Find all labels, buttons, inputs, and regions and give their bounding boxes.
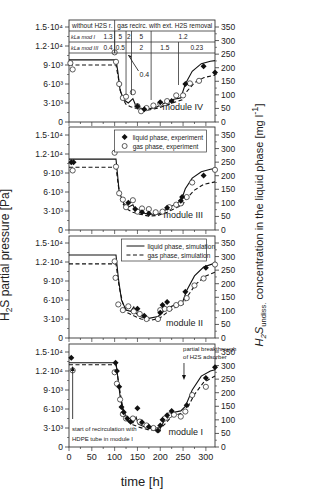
y-tick-label-right: 250 [221, 157, 235, 167]
x-tick-label: 200 [153, 452, 168, 462]
y-tick-label-right: 200 [221, 279, 235, 289]
gas-exp-marker [126, 304, 131, 309]
gas-exp-marker [151, 103, 156, 108]
y-tick-label-right: 300 [221, 361, 235, 371]
y-tick-label-left: 9·10³ [43, 385, 63, 395]
gas-exp-marker [120, 197, 125, 202]
y-tick-label-right: 100 [221, 90, 235, 100]
y-tick-label-left: 1.5·10⁴ [35, 130, 63, 140]
y-tick-label-left: 9·10³ [43, 168, 63, 178]
y-tick-label-left: 6·10³ [43, 295, 63, 305]
gas-exp-marker [203, 384, 208, 389]
module-label: module II [166, 318, 203, 328]
gas-exp-marker [178, 414, 183, 419]
y-tick-label-left: 3·10³ [43, 206, 63, 216]
gas-exp-marker [123, 205, 128, 210]
gas-exp-marker [190, 392, 195, 397]
table-cell: 2 [140, 44, 144, 51]
y-tick-label-right: 200 [221, 171, 235, 181]
table-annotation: 0.4 [140, 71, 150, 78]
gas-exp-marker [117, 191, 122, 196]
module-label: module III [163, 210, 203, 220]
x-tick-label: 0 [66, 452, 71, 462]
gas-exp-marker [180, 93, 185, 98]
y-tick-label-left: 3·10³ [43, 98, 63, 108]
y-tick-label-left: 1.2·10⁴ [35, 149, 63, 159]
y-tick-label-right: 150 [221, 76, 235, 86]
y-axis-right-label: H2Sundiss. concentration in the liquid p… [250, 104, 268, 347]
y-tick-label-right: 150 [221, 292, 235, 302]
panel-module-iv: 03·10³6·10³9·10³1.2·10⁴1.5·10⁴0501001502… [35, 20, 235, 127]
y-tick-label-left: 3·10³ [43, 314, 63, 324]
legend-label: gas phase, simulation [147, 252, 210, 260]
y-tick-label-right: 150 [221, 401, 235, 411]
y-tick-label-left: 0 [58, 117, 63, 127]
x-tick-label: 300 [198, 452, 213, 462]
gas-exp-marker [116, 302, 121, 307]
gas-exp-marker [190, 180, 195, 185]
y-tick-label-right: 250 [221, 49, 235, 59]
y-tick-label-left: 1.5·10⁴ [35, 347, 63, 357]
table-cell: 0.5 [116, 44, 125, 51]
gas-exp-marker [153, 210, 158, 215]
y-tick-label-right: 300 [221, 36, 235, 46]
y-tick-label-right: 150 [221, 184, 235, 194]
legend-experiment: liquid phase, experimentgas phase, exper… [115, 130, 207, 152]
gas-exp-marker [130, 90, 135, 95]
legend-simulation: liquid phase, simulationgas phase, simul… [121, 239, 215, 261]
y-tick-label-right: 50 [221, 211, 231, 221]
gas-exp-marker [187, 81, 192, 86]
gas-exp-marker [174, 93, 179, 98]
table-row-label: kLa mod III [71, 45, 99, 51]
y-tick-label-right: 250 [221, 374, 235, 384]
y-tick-label-right: 100 [221, 198, 235, 208]
y-tick-label-left: 0 [58, 225, 63, 235]
legend-label: gas phase, experiment [133, 143, 199, 151]
annotation-text: of H2S adsorber [183, 354, 227, 360]
y-tick-label-left: 1.5·10⁴ [35, 238, 63, 248]
module-label: module IV [162, 102, 203, 112]
y-tick-label-left: 6·10³ [43, 187, 63, 197]
y-tick-label-left: 0 [58, 442, 63, 452]
gas-exp-marker [112, 259, 117, 264]
gas-exp-marker [196, 78, 201, 83]
x-axis-label: time [h] [121, 474, 164, 489]
annotation-text: HDPE tube in module I [72, 436, 133, 442]
gas-exp-marker [130, 198, 135, 203]
gas-exp-marker [117, 81, 122, 86]
legend-gas-marker [122, 144, 127, 149]
gas-exp-marker [212, 262, 217, 267]
y-tick-label-right: 350 [221, 238, 235, 248]
table-cell: 5 [140, 33, 144, 40]
legend-label: liquid phase, experiment [133, 134, 204, 142]
x-tick-label: 150 [130, 452, 145, 462]
module-label: module I [168, 427, 203, 437]
table-cell: 0.23 [190, 44, 203, 51]
annotation-text: partial breakthrough [183, 346, 236, 352]
y-tick-label-right: 350 [221, 130, 235, 140]
gas-exp-marker [212, 167, 217, 172]
x-tick-label: 50 [87, 452, 97, 462]
y-tick-label-left: 3·10³ [43, 423, 63, 433]
gas-exp-marker [120, 308, 125, 313]
gas-exp-marker [113, 275, 118, 280]
gas-exp-marker [68, 61, 73, 66]
table-cell: 1.2 [179, 33, 188, 40]
y-tick-label-right: 300 [221, 252, 235, 262]
y-tick-label-left: 6·10³ [43, 79, 63, 89]
y-tick-label-left: 9·10³ [43, 60, 63, 70]
y-tick-label-right: 100 [221, 415, 235, 425]
annotation-text: start of recirculation with [72, 426, 137, 432]
table-cell: 1.3 [104, 33, 113, 40]
x-tick-label: 250 [176, 452, 191, 462]
y-tick-label-right: 50 [221, 103, 231, 113]
gas-exp-marker [113, 164, 118, 169]
gas-exp-marker [167, 306, 172, 311]
table-cell: without H2S r. [71, 22, 113, 29]
y-tick-label-left: 0 [58, 333, 63, 343]
y-tick-label-right: 50 [221, 428, 231, 438]
y-tick-label-right: 0 [221, 333, 226, 343]
y-tick-label-left: 6·10³ [43, 404, 63, 414]
y-tick-label-right: 200 [221, 63, 235, 73]
gas-exp-marker [70, 168, 75, 173]
